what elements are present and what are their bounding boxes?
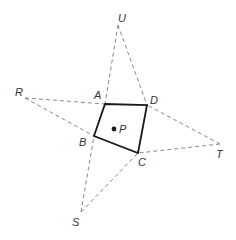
label-A: A	[93, 89, 101, 101]
geometry-diagram: U R T S A D B C P	[0, 0, 236, 240]
label-C: C	[138, 156, 146, 168]
label-P: P	[119, 123, 127, 135]
point-p-dot	[112, 127, 117, 132]
segment-RB	[25, 98, 94, 136]
segment-TD	[147, 105, 220, 144]
label-B: B	[79, 136, 86, 148]
label-T: T	[216, 148, 224, 160]
label-U: U	[118, 12, 126, 24]
segment-TC	[138, 144, 220, 153]
point-labels: U R T S A D B C P	[15, 12, 224, 228]
segment-UD	[118, 25, 147, 105]
segment-RA	[25, 98, 105, 104]
dashed-lines	[25, 25, 220, 212]
segment-UA	[105, 25, 118, 104]
label-D: D	[150, 94, 158, 106]
label-R: R	[15, 86, 23, 98]
label-S: S	[72, 216, 80, 228]
